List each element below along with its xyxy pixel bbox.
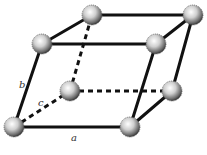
atom-bottom-front-right — [120, 117, 140, 137]
atom-back-bottom-right — [162, 81, 182, 101]
edge-back-bottom-right-to-top-back-right — [172, 15, 193, 91]
label-b: b — [19, 79, 25, 90]
label-c: c — [38, 97, 44, 108]
label-a: a — [71, 132, 77, 143]
atom-top-back-right — [183, 5, 203, 25]
atom-top-front-left — [32, 34, 52, 54]
unit-cell-diagram: b c a — [0, 0, 207, 155]
atom-bottom-front-left — [4, 117, 24, 137]
atom-top-front-right — [146, 34, 166, 54]
atom-top-back-left — [82, 5, 102, 25]
edges-group — [14, 15, 193, 127]
atom-back-bottom-left — [60, 81, 80, 101]
